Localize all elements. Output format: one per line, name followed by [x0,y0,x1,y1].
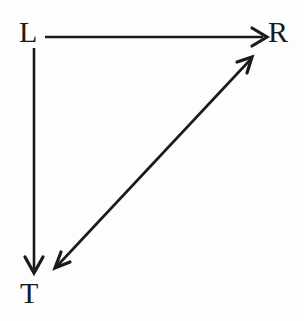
edge-l-to-t [25,48,43,273]
node-label-t: T [20,278,38,308]
node-label-l: L [19,17,37,47]
edge-t-to-r-diagonal [55,57,252,268]
edge-t-to-r-line [58,60,250,265]
diagram-canvas: L R T [0,0,304,321]
arrow-diagram [0,0,304,321]
edge-l-to-r [45,28,267,46]
node-label-r: R [268,17,288,47]
